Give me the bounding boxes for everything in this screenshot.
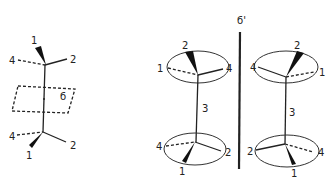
- dashed-bond: [168, 68, 198, 75]
- atom-label: 4: [250, 62, 256, 73]
- bond-label: 3: [202, 103, 208, 114]
- wedge-bond: [35, 46, 46, 65]
- atom-label: 4: [226, 63, 232, 74]
- mirror-label: б': [237, 15, 246, 26]
- dashed-bond: [18, 60, 45, 65]
- atom-label: 2: [182, 40, 188, 51]
- atom-label: 2: [294, 40, 300, 51]
- bond: [258, 67, 286, 77]
- bond: [45, 59, 67, 65]
- mirror-plane: [239, 32, 240, 169]
- dashed-bond: [17, 132, 43, 135]
- atom-label: 1: [291, 168, 297, 179]
- atom-label: 1: [319, 67, 325, 78]
- bond: [195, 142, 221, 151]
- atom-label: 2: [70, 140, 76, 151]
- central-bond: [196, 75, 198, 142]
- plane-label: б: [60, 91, 66, 102]
- atom-label: 4: [9, 131, 15, 142]
- wedge-bond: [29, 132, 43, 148]
- atom-label: 1: [179, 166, 185, 177]
- atom-label: 1: [157, 63, 163, 74]
- inversion-center-dot: [43, 98, 45, 100]
- atom-label: 1: [31, 35, 37, 46]
- atom-label: 2: [70, 54, 76, 65]
- atom-label: 1: [26, 150, 32, 161]
- atom-label: 4: [156, 141, 162, 152]
- atom-label: 2: [247, 146, 253, 157]
- dashed-bond: [286, 72, 314, 77]
- bond: [198, 69, 223, 75]
- dashed-bond: [166, 142, 195, 146]
- bond-label: 3: [289, 107, 295, 118]
- wedge-bond: [185, 51, 198, 75]
- bond: [43, 132, 66, 142]
- atom-label: 2: [225, 147, 231, 158]
- wedge-bond: [182, 142, 195, 163]
- stereochemistry-diagram: 1 4 2 б 4 2 1 б' 2 1 4 3 4 2 1 2 4 1 3 2…: [0, 0, 334, 184]
- atom-label: 4: [318, 147, 324, 158]
- right-molecule: [254, 51, 319, 167]
- middle-molecule: [164, 51, 229, 165]
- dashed-bond: [285, 144, 313, 152]
- bond: [256, 144, 285, 150]
- wedge-bond: [285, 144, 296, 165]
- central-bond: [285, 77, 286, 144]
- atom-label: 4: [9, 55, 15, 66]
- wedge-bond: [286, 51, 304, 77]
